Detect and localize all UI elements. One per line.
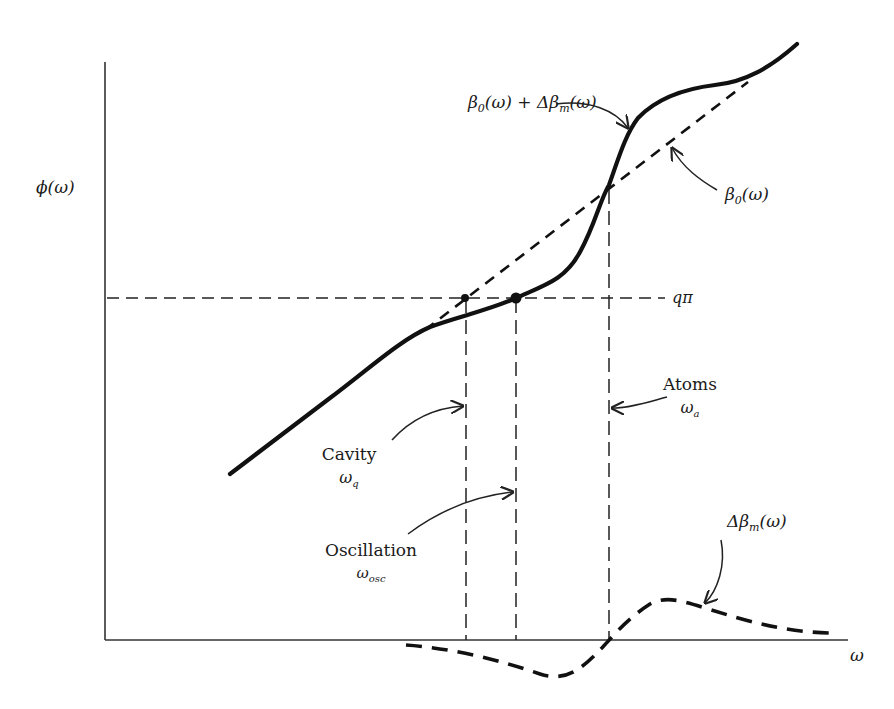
atoms-symbol: ωa	[680, 398, 699, 419]
oscillation-symbol: ωosc	[357, 564, 386, 584]
oscillation-label: Oscillation	[325, 540, 417, 560]
delta-beta-label: Δβm(ω)	[726, 511, 787, 534]
beta0-line	[425, 82, 748, 330]
oscillation-arrow	[408, 492, 513, 534]
atoms-arrow	[612, 397, 667, 408]
phase-diagram: ϕ(ω) ω qπ β0(ω) + Δβm(ω) β0(ω) Cavity ωq…	[0, 0, 894, 709]
beta0-arrow	[672, 148, 717, 190]
cavity-symbol: ωq	[339, 468, 358, 489]
cavity-label: Cavity	[322, 444, 377, 464]
q-pi-label: qπ	[672, 288, 693, 307]
x-axis-label: ω	[850, 645, 864, 665]
delta-beta-curve	[406, 600, 830, 677]
beta0-label: β0(ω)	[724, 184, 769, 207]
cavity-arrow	[392, 406, 463, 440]
atoms-label: Atoms	[662, 374, 717, 394]
y-axis-label: ϕ(ω)	[36, 177, 75, 197]
cavity-intersection-dot	[461, 294, 469, 302]
delta-beta-arrow	[705, 540, 723, 603]
oscillation-point-dot	[511, 293, 522, 304]
